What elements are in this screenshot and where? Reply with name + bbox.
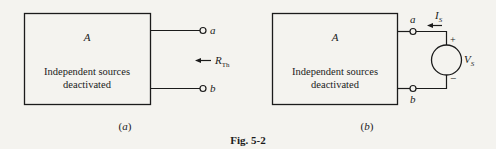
wire-bottom-right-b <box>416 75 447 89</box>
left-arrow-icon <box>195 58 211 63</box>
terminal-label-a: a <box>210 24 216 36</box>
source-minus: − <box>450 72 456 84</box>
terminal-label-a-b: a <box>410 13 416 25</box>
source-plus: + <box>450 34 456 45</box>
terminal-label-b-b: b <box>410 93 416 105</box>
box-text-line1-b: Independent sources <box>292 66 378 77</box>
box-title-a: A <box>83 31 91 43</box>
network-box-b <box>273 14 398 105</box>
sublabel-b: (b) <box>361 120 374 133</box>
network-box-a <box>25 14 151 105</box>
terminal-a-icon-b <box>410 29 416 35</box>
terminal-b-icon <box>200 86 206 92</box>
terminal-b-icon-b <box>410 86 416 92</box>
sublabel-a: (a) <box>119 120 132 133</box>
box-title-b: A <box>331 31 339 43</box>
figure-caption: Fig. 5-2 <box>230 134 266 146</box>
vs-label: VS <box>464 53 475 68</box>
voltage-source-icon <box>432 45 462 75</box>
rth-label: RTh <box>214 54 230 69</box>
box-text-line2-b: deactivated <box>311 79 360 90</box>
circuit-figure: A Independent sources deactivated a b RT… <box>0 0 496 149</box>
is-label: IS <box>434 9 443 24</box>
terminal-label-b: b <box>210 82 216 94</box>
box-text-line2-a: deactivated <box>63 79 112 90</box>
terminal-a-icon <box>200 28 206 34</box>
panel-b: A Independent sources deactivated a b + … <box>273 9 475 133</box>
wire-top-right-b <box>416 32 447 46</box>
panel-a: A Independent sources deactivated a b RT… <box>25 14 231 134</box>
box-text-line1-a: Independent sources <box>44 66 130 77</box>
